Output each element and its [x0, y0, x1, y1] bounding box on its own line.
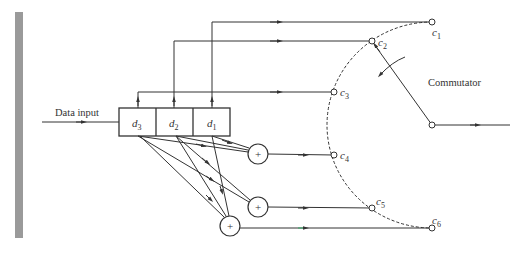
cell-d2-label: d2 [169, 117, 179, 132]
commutator-pivot [429, 122, 435, 128]
adder-2-symbol: + [255, 201, 261, 213]
cell-d3-label: d3 [132, 117, 142, 132]
output-c5-label: c5 [376, 195, 385, 210]
output-c2-label: c2 [378, 36, 387, 51]
diagram-svg: + + + Data input d3 d2 d1 c1 c2 c3 c4 c5… [0, 0, 532, 254]
tap-d3-to-c3 [138, 92, 334, 108]
adder-1-symbol: + [255, 148, 261, 160]
contact-c5 [369, 205, 375, 211]
output-c4-label: c4 [340, 149, 349, 164]
contact-c4 [331, 152, 337, 158]
side-bar [15, 12, 23, 238]
data-input-label: Data input [55, 107, 99, 118]
tap-d1-to-c1 [212, 22, 432, 108]
commutator-label: Commutator [428, 77, 482, 88]
encoder-diagram: + + + Data input d3 d2 d1 c1 c2 c3 c4 c5… [0, 0, 532, 254]
output-c1-label: c1 [432, 26, 441, 41]
commutator-arm [374, 44, 432, 125]
cell-d1-label: d1 [207, 117, 217, 132]
output-c3-label: c3 [340, 86, 349, 101]
contact-c2 [369, 38, 375, 44]
adder-3-symbol: + [227, 220, 233, 232]
contact-c3 [331, 89, 337, 95]
contact-c1 [429, 19, 435, 25]
